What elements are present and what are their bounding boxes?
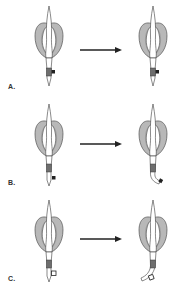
- panel-b-graphic: [0, 96, 179, 192]
- panel-label-a: A.: [8, 83, 16, 90]
- marker-filled-square-icon: [52, 176, 56, 180]
- marker-open-square-icon: [148, 274, 154, 280]
- panel-label-b: B.: [8, 179, 16, 186]
- panel-a: A.: [0, 0, 179, 96]
- panel-a-graphic: [0, 0, 179, 96]
- marker-open-square-icon: [52, 271, 57, 276]
- device-after-a: [139, 6, 167, 86]
- panel-b: B.: [0, 96, 179, 192]
- device-before-b: [35, 104, 63, 186]
- panel-label-c: C.: [8, 275, 16, 282]
- arrow-icon: [80, 236, 122, 242]
- marker-filled-square-icon: [52, 70, 56, 74]
- band: [47, 260, 52, 268]
- band: [151, 164, 156, 172]
- device-after-c: [139, 200, 167, 281]
- device-before-c: [35, 200, 63, 282]
- marker-filled-square-icon: [156, 70, 160, 74]
- band: [151, 260, 156, 268]
- band: [47, 164, 52, 172]
- device-before-a: [35, 6, 63, 86]
- panel-c: C.: [0, 192, 179, 288]
- device-after-b: [139, 104, 167, 184]
- band: [151, 68, 156, 76]
- band: [47, 68, 52, 76]
- arrow-icon: [80, 47, 122, 53]
- arrow-icon: [80, 141, 122, 147]
- panel-c-graphic: [0, 192, 179, 289]
